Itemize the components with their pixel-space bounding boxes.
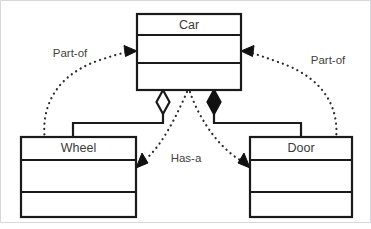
diagram-canvas: Car Wheel Door Part-of Part-of Ha [0, 0, 371, 229]
class-name-car: Car [179, 18, 199, 32]
uml-class-diagram: Car Wheel Door Part-of Part-of Ha [0, 0, 371, 229]
class-methods-compartment-car [137, 63, 241, 90]
class-attributes-compartment-wheel [21, 160, 136, 192]
class-methods-compartment-wheel [21, 192, 136, 217]
edge-label-part-of-right: Part-of [311, 54, 346, 66]
class-box-wheel[interactable]: Wheel [21, 137, 136, 217]
hollow-diamond-icon [157, 90, 170, 114]
edge-label-has-a: Has-a [171, 152, 202, 164]
arrowhead-filled-triangle-icon [241, 46, 254, 57]
composition-link-car-door[interactable] [208, 90, 302, 137]
arrowhead-filled-triangle-icon [136, 153, 148, 168]
filled-diamond-icon [208, 90, 221, 114]
edge-label-part-of-left: Part-of [53, 47, 88, 59]
class-box-door[interactable]: Door [250, 137, 352, 217]
dependency-link-part-of-left[interactable] [44, 46, 137, 151]
arrowhead-filled-triangle-icon [238, 153, 250, 168]
aggregation-link-car-wheel[interactable] [73, 90, 170, 137]
class-name-door: Door [287, 141, 314, 155]
class-box-car[interactable]: Car [137, 14, 241, 90]
class-name-wheel: Wheel [61, 141, 96, 155]
arrowhead-filled-triangle-icon [124, 46, 137, 57]
class-attributes-compartment-door [250, 160, 352, 192]
class-attributes-compartment-car [137, 35, 241, 63]
class-methods-compartment-door [250, 192, 352, 217]
